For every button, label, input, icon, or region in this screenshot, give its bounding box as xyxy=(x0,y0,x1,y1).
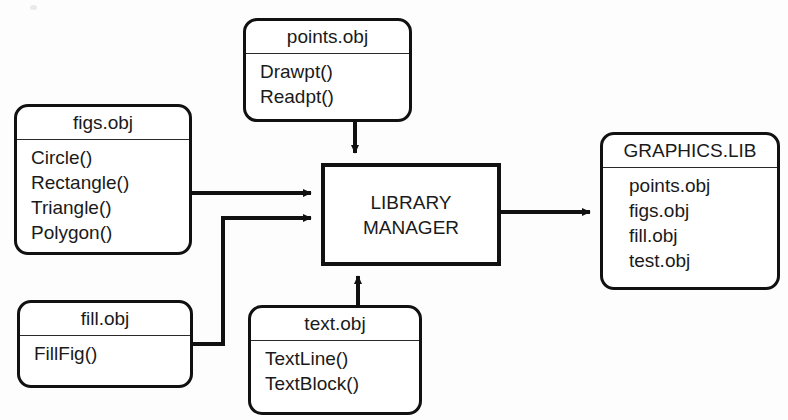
member-item: Triangle() xyxy=(31,195,189,220)
member-item: Drawpt() xyxy=(260,59,409,84)
member-item: TextLine() xyxy=(265,346,419,371)
node-fill-obj-title: fill.obj xyxy=(20,303,190,336)
scan-artifact xyxy=(30,5,37,10)
node-figs-obj-members: Circle() Rectangle() Triangle() Polygon(… xyxy=(17,140,189,251)
node-library-manager-label: LIBRARY MANAGER xyxy=(325,190,497,240)
member-item: test.obj xyxy=(629,248,777,273)
node-points-obj-title: points.obj xyxy=(246,21,409,54)
library-manager-line-2: MANAGER xyxy=(325,215,497,240)
member-item: points.obj xyxy=(629,173,777,198)
member-item: FillFig() xyxy=(34,341,190,366)
node-text-obj-members: TextLine() TextBlock() xyxy=(251,341,419,402)
node-figs-obj-title: figs.obj xyxy=(17,107,189,140)
member-item: fill.obj xyxy=(629,223,777,248)
member-item: Circle() xyxy=(31,145,189,170)
node-points-obj-members: Drawpt() Readpt() xyxy=(246,54,409,115)
node-text-obj[interactable]: text.obj TextLine() TextBlock() xyxy=(248,305,422,415)
member-item: Rectangle() xyxy=(31,170,189,195)
node-library-manager[interactable]: LIBRARY MANAGER xyxy=(321,163,501,266)
node-fill-obj-members: FillFig() xyxy=(20,336,190,372)
library-manager-line-1: LIBRARY xyxy=(325,190,497,215)
node-fill-obj[interactable]: fill.obj FillFig() xyxy=(17,300,193,388)
node-graphics-lib-members: points.obj figs.obj fill.obj test.obj xyxy=(603,168,777,279)
member-item: Readpt() xyxy=(260,84,409,109)
node-figs-obj[interactable]: figs.obj Circle() Rectangle() Triangle()… xyxy=(14,104,192,255)
diagram-canvas: points.obj Drawpt() Readpt() figs.obj Ci… xyxy=(0,0,788,420)
member-item: figs.obj xyxy=(629,198,777,223)
member-item: TextBlock() xyxy=(265,371,419,396)
member-item: Polygon() xyxy=(31,220,189,245)
node-text-obj-title: text.obj xyxy=(251,308,419,341)
node-graphics-lib[interactable]: GRAPHICS.LIB points.obj figs.obj fill.ob… xyxy=(600,132,780,290)
node-points-obj[interactable]: points.obj Drawpt() Readpt() xyxy=(243,18,412,122)
node-graphics-lib-title: GRAPHICS.LIB xyxy=(603,135,777,168)
